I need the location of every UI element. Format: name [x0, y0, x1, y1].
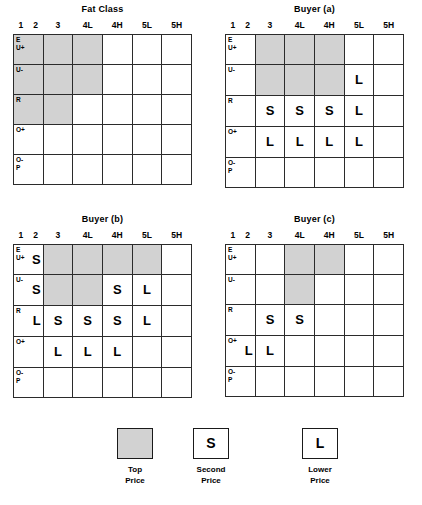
- matrix-cell[interactable]: [73, 125, 103, 155]
- matrix-cell[interactable]: [73, 95, 103, 125]
- matrix-cell[interactable]: [255, 275, 285, 305]
- row-label-cell[interactable]: O+: [14, 337, 44, 368]
- matrix-cell[interactable]: S: [102, 306, 132, 337]
- row-label-cell[interactable]: U-: [14, 65, 44, 95]
- matrix-cell[interactable]: [162, 306, 192, 337]
- matrix-cell[interactable]: S: [255, 305, 285, 336]
- matrix-cell[interactable]: L: [132, 275, 162, 306]
- matrix-cell[interactable]: S: [285, 305, 315, 336]
- matrix-cell[interactable]: [43, 245, 73, 275]
- matrix-cell[interactable]: [162, 125, 192, 155]
- matrix-cell[interactable]: [102, 35, 132, 65]
- matrix-cell[interactable]: [162, 245, 192, 275]
- matrix-cell[interactable]: [374, 336, 404, 367]
- matrix-cell[interactable]: [255, 158, 285, 188]
- matrix-cell[interactable]: [285, 245, 315, 275]
- row-label-cell[interactable]: U-: [226, 275, 256, 305]
- matrix-cell[interactable]: [162, 155, 192, 185]
- matrix-cell[interactable]: [255, 65, 285, 96]
- row-label-cell[interactable]: R: [14, 95, 44, 125]
- matrix-cell[interactable]: L: [132, 306, 162, 337]
- matrix-cell[interactable]: [374, 35, 404, 65]
- row-label-cell[interactable]: O+: [226, 127, 256, 158]
- matrix-cell[interactable]: [132, 368, 162, 398]
- matrix-cell[interactable]: [344, 245, 374, 275]
- matrix-cell[interactable]: [43, 125, 73, 155]
- matrix-cell[interactable]: L: [285, 127, 315, 158]
- matrix-cell[interactable]: [255, 367, 285, 397]
- matrix-cell[interactable]: [73, 155, 103, 185]
- matrix-cell[interactable]: L: [255, 127, 285, 158]
- matrix-cell[interactable]: [43, 368, 73, 398]
- matrix-cell[interactable]: [43, 65, 73, 95]
- matrix-cell[interactable]: [255, 35, 285, 65]
- matrix-cell[interactable]: [132, 95, 162, 125]
- row-label-cell[interactable]: EU+: [226, 245, 256, 275]
- matrix-cell[interactable]: L: [344, 96, 374, 127]
- row-label-cell[interactable]: O-P: [14, 155, 44, 185]
- matrix-cell[interactable]: L: [255, 336, 285, 367]
- matrix-cell[interactable]: [374, 158, 404, 188]
- matrix-cell[interactable]: [314, 65, 344, 96]
- matrix-cell[interactable]: [73, 65, 103, 95]
- matrix-cell[interactable]: [374, 367, 404, 397]
- matrix-cell[interactable]: [43, 95, 73, 125]
- matrix-cell[interactable]: [374, 305, 404, 336]
- matrix-cell[interactable]: [162, 337, 192, 368]
- matrix-cell[interactable]: [314, 367, 344, 397]
- matrix-cell[interactable]: [344, 367, 374, 397]
- matrix-cell[interactable]: [344, 158, 374, 188]
- row-label-cell[interactable]: EU+: [226, 35, 256, 65]
- row-label-cell[interactable]: O-P: [226, 367, 256, 397]
- matrix-cell[interactable]: [314, 336, 344, 367]
- matrix-cell[interactable]: [344, 35, 374, 65]
- matrix-cell[interactable]: [132, 125, 162, 155]
- matrix-cell[interactable]: L: [43, 337, 73, 368]
- matrix-cell[interactable]: [102, 65, 132, 95]
- matrix-cell[interactable]: [374, 245, 404, 275]
- matrix-cell[interactable]: [73, 245, 103, 275]
- matrix-cell[interactable]: [102, 368, 132, 398]
- matrix-cell[interactable]: [162, 35, 192, 65]
- matrix-cell[interactable]: [314, 158, 344, 188]
- row-label-cell[interactable]: O+L: [226, 336, 256, 367]
- matrix-cell[interactable]: [255, 245, 285, 275]
- row-label-cell[interactable]: O-P: [14, 368, 44, 398]
- matrix-cell[interactable]: [344, 305, 374, 336]
- matrix-cell[interactable]: [374, 96, 404, 127]
- matrix-cell[interactable]: [285, 65, 315, 96]
- matrix-cell[interactable]: [43, 275, 73, 306]
- matrix-cell[interactable]: S: [102, 275, 132, 306]
- matrix-cell[interactable]: [374, 127, 404, 158]
- row-label-cell[interactable]: O+: [14, 125, 44, 155]
- matrix-cell[interactable]: [285, 336, 315, 367]
- matrix-cell[interactable]: [132, 155, 162, 185]
- matrix-cell[interactable]: [102, 155, 132, 185]
- matrix-cell[interactable]: [285, 275, 315, 305]
- matrix-cell[interactable]: [162, 275, 192, 306]
- row-label-cell[interactable]: EU+: [14, 35, 44, 65]
- row-label-cell[interactable]: RL: [14, 306, 44, 337]
- matrix-cell[interactable]: S: [314, 96, 344, 127]
- matrix-cell[interactable]: S: [43, 306, 73, 337]
- matrix-cell[interactable]: [43, 155, 73, 185]
- matrix-cell[interactable]: S: [73, 306, 103, 337]
- matrix-cell[interactable]: [162, 368, 192, 398]
- matrix-cell[interactable]: L: [314, 127, 344, 158]
- matrix-cell[interactable]: [132, 337, 162, 368]
- matrix-cell[interactable]: [374, 275, 404, 305]
- matrix-cell[interactable]: [374, 65, 404, 96]
- row-label-cell[interactable]: R: [226, 305, 256, 336]
- matrix-cell[interactable]: [73, 275, 103, 306]
- matrix-cell[interactable]: [43, 35, 73, 65]
- matrix-cell[interactable]: L: [73, 337, 103, 368]
- matrix-cell[interactable]: [285, 35, 315, 65]
- row-label-cell[interactable]: U-: [226, 65, 256, 96]
- matrix-cell[interactable]: [314, 245, 344, 275]
- matrix-cell[interactable]: [285, 367, 315, 397]
- row-label-cell[interactable]: R: [226, 96, 256, 127]
- matrix-cell[interactable]: [162, 65, 192, 95]
- matrix-cell[interactable]: L: [102, 337, 132, 368]
- matrix-cell[interactable]: [314, 35, 344, 65]
- matrix-cell[interactable]: [285, 158, 315, 188]
